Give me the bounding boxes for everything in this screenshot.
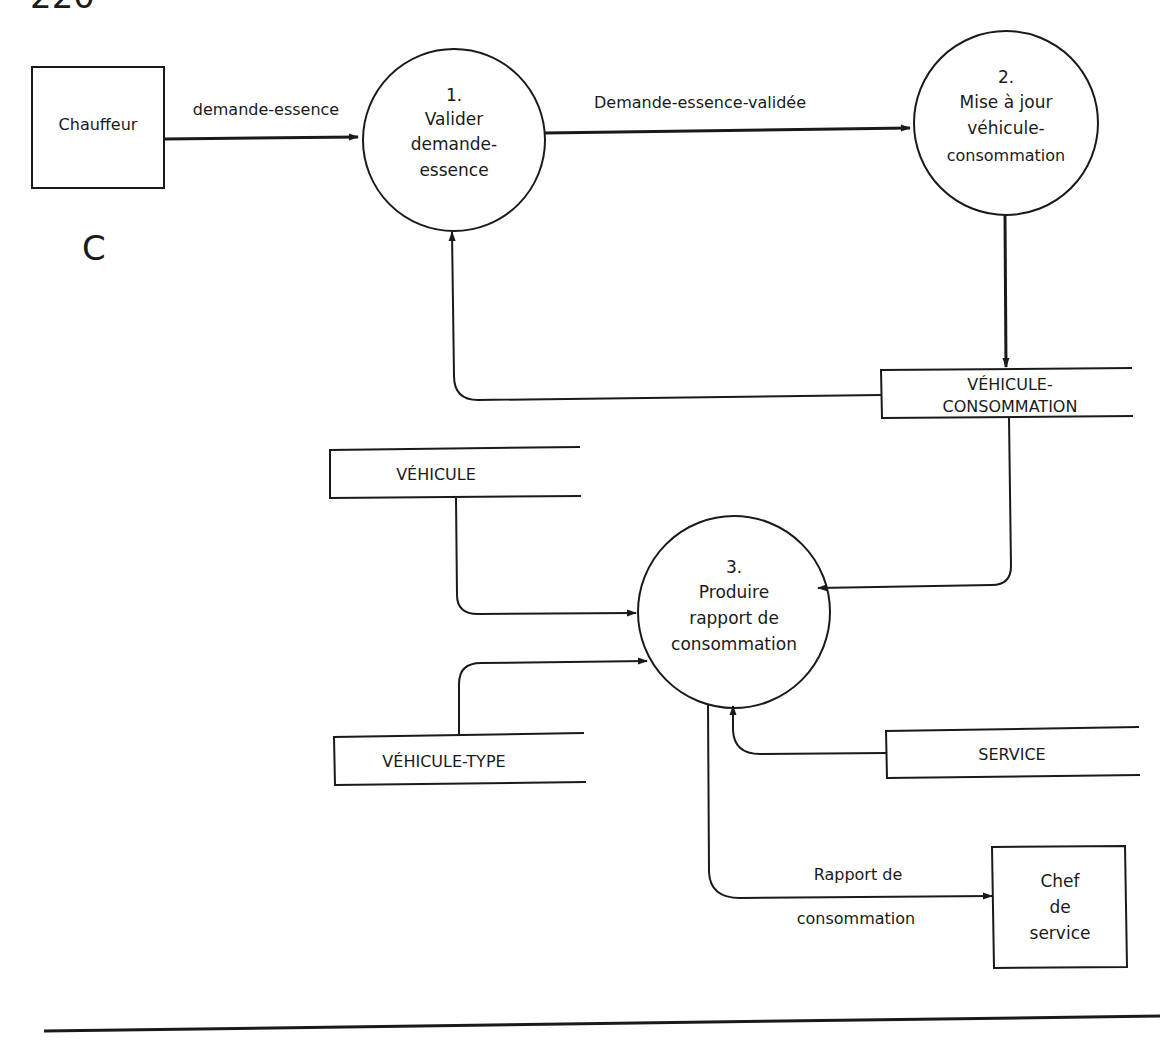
entity-chauffeur-label: Chauffeur [59,115,138,134]
store-vehicule-consommation-line-1: VÉHICULE- [967,375,1052,394]
entity-chef-line-1: Chef [1040,871,1080,891]
entity-chef-line-3: service [1030,923,1091,943]
flow-label-demande-essence: demande-essence [193,100,339,119]
process-2-line-1: Mise à jour [960,92,1053,112]
process-1-valider-demande-essence: 1. Valider demande- essence [363,49,545,231]
process-1-line-2: demande- [411,134,497,154]
flow-demande-essence-validee: Demande-essence-validée [545,93,910,133]
store-service: SERVICE [886,727,1140,778]
store-vehicule-label: VÉHICULE [396,465,476,484]
process-2-mise-a-jour: 2. Mise à jour véhicule- consommation [914,31,1098,215]
entity-chauffeur: Chauffeur [32,67,164,188]
store-vehicule-consommation: VÉHICULE- CONSOMMATION [881,368,1133,418]
store-service-label: SERVICE [978,745,1045,764]
flow-p2-to-vehicule-consommation [1005,215,1006,367]
process-3-line-1: Produire [699,582,769,602]
process-3-line-3: consommation [671,634,797,654]
process-3-produire-rapport: 3. Produire rapport de consommation [638,516,830,708]
flow-label-demande-essence-validee: Demande-essence-validée [594,93,806,112]
store-vehicule-type-label: VÉHICULE-TYPE [382,752,505,771]
flow-vehicule-type-to-p3 [459,661,647,735]
flow-vehicule-consommation-to-p3 [818,418,1011,588]
store-vehicule-consommation-line-2: CONSOMMATION [943,397,1078,416]
process-2-number: 2. [998,67,1014,87]
process-2-line-2: véhicule- [967,118,1044,138]
process-1-line-1: Valider [425,109,483,129]
store-vehicule: VÉHICULE [330,447,581,498]
section-letter: C [82,228,106,268]
flow-vehicule-consommation-to-p1 [452,232,881,400]
flow-rapport-de-consommation: Rapport de consommation [708,704,992,928]
process-3-line-2: rapport de [689,608,779,628]
bottom-rule [44,1016,1160,1031]
entity-chef-line-2: de [1049,897,1070,917]
entity-chef-de-service: Chef de service [992,846,1127,968]
process-2-line-3: consommation [947,146,1065,165]
store-vehicule-type: VÉHICULE-TYPE [334,733,586,785]
page-number: 220 [30,0,95,16]
flow-service-to-p3 [733,706,886,754]
flow-demande-essence: demande-essence [164,100,358,139]
process-1-number: 1. [446,85,462,105]
process-1-line-3: essence [419,160,488,180]
flow-label-rapport-line-1: Rapport de [814,865,903,884]
process-3-number: 3. [726,557,742,577]
flow-vehicule-to-p3 [456,498,636,614]
flow-label-rapport-line-2: consommation [797,909,915,928]
